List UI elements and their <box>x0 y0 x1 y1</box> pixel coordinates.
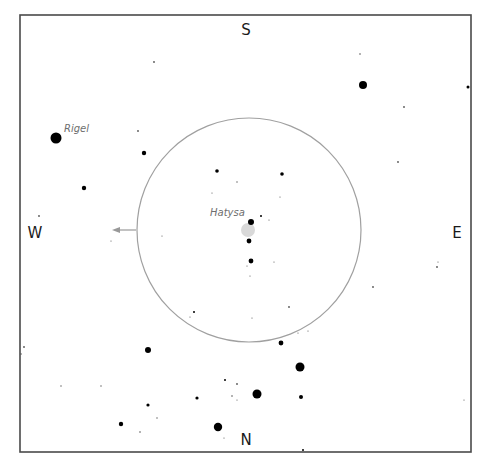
star <box>279 341 284 346</box>
star-chart: S N W E Rigel Hatysa <box>0 0 485 473</box>
star <box>288 306 290 308</box>
star <box>193 311 195 313</box>
star <box>359 81 367 89</box>
star <box>246 265 247 266</box>
star-label-hatysa: Hatysa <box>210 207 245 218</box>
star <box>436 266 438 268</box>
star <box>38 215 40 217</box>
star <box>60 385 61 386</box>
star <box>236 181 237 182</box>
star <box>467 86 470 89</box>
star <box>236 383 238 385</box>
star <box>299 395 303 399</box>
star <box>195 396 198 399</box>
star <box>280 172 284 176</box>
star <box>279 196 280 197</box>
star <box>215 169 219 173</box>
star <box>248 219 254 225</box>
star <box>359 53 361 55</box>
compass-label-south: S <box>241 21 251 39</box>
star <box>268 219 269 220</box>
star <box>145 347 151 353</box>
star <box>51 133 62 144</box>
star-label-rigel: Rigel <box>64 123 89 134</box>
star <box>153 61 155 63</box>
star <box>253 390 262 399</box>
star <box>307 330 308 331</box>
star <box>247 239 252 244</box>
star <box>224 379 226 381</box>
star <box>260 215 262 217</box>
compass-label-east: E <box>452 224 461 242</box>
star <box>297 332 298 333</box>
star <box>251 317 252 318</box>
star <box>146 403 149 406</box>
star <box>82 186 86 190</box>
star <box>296 363 305 372</box>
star <box>249 259 254 264</box>
star <box>463 399 464 400</box>
star <box>372 286 374 288</box>
compass-label-west: W <box>28 224 43 242</box>
star <box>139 431 141 433</box>
star <box>223 437 224 438</box>
compass-label-north: N <box>240 431 251 449</box>
star <box>119 422 123 426</box>
star <box>100 385 101 386</box>
star <box>142 151 146 155</box>
star <box>214 423 222 431</box>
star <box>302 449 304 451</box>
star <box>23 346 25 348</box>
star <box>397 161 399 163</box>
star <box>249 275 250 276</box>
star <box>273 261 274 262</box>
star <box>20 353 22 355</box>
star <box>161 235 162 236</box>
star <box>189 316 190 317</box>
star <box>231 395 233 397</box>
star <box>156 417 157 418</box>
star <box>437 261 438 262</box>
star <box>236 399 237 400</box>
hatysa-nebula <box>241 223 255 237</box>
star <box>137 130 139 132</box>
star <box>403 106 405 108</box>
star <box>211 192 212 193</box>
star <box>110 240 111 241</box>
